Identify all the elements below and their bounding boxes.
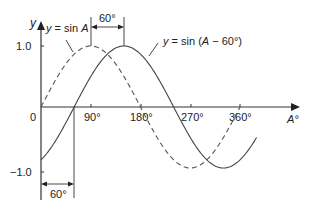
leader-sin-shift — [149, 43, 158, 56]
x-tick-label-90: 90° — [84, 111, 101, 123]
phase-bottom-arrow-left-icon — [41, 182, 47, 187]
label-sin-shift: y = sin (A − 60°) — [162, 35, 242, 47]
sine-phase-shift-chart: y A° 0 90° 180° 270° 360° 1.0 −1.0 y = s… — [0, 0, 309, 206]
leader-sin-a — [66, 40, 73, 52]
label-sin-a: y = sin A — [45, 22, 89, 34]
x-tick-label-270: 270° — [181, 111, 204, 123]
x-axis-arrow-icon — [291, 103, 300, 111]
phase-bottom-arrow-right-icon — [68, 182, 74, 187]
y-tick-label-minus-1: −1.0 — [10, 166, 32, 178]
x-tick-label-180: 180° — [130, 111, 153, 123]
origin-label: 0 — [30, 111, 36, 123]
y-tick-label-1: 1.0 — [16, 40, 31, 52]
phase-top-label: 60° — [99, 12, 116, 24]
phase-bottom-label: 60° — [50, 188, 67, 200]
x-axis-label: A° — [286, 113, 299, 125]
y-axis-arrow-icon — [37, 21, 45, 30]
y-axis-label: y — [29, 16, 37, 30]
phase-top-arrow-left-icon — [91, 25, 97, 30]
phase-top-arrow-right-icon — [118, 25, 124, 30]
